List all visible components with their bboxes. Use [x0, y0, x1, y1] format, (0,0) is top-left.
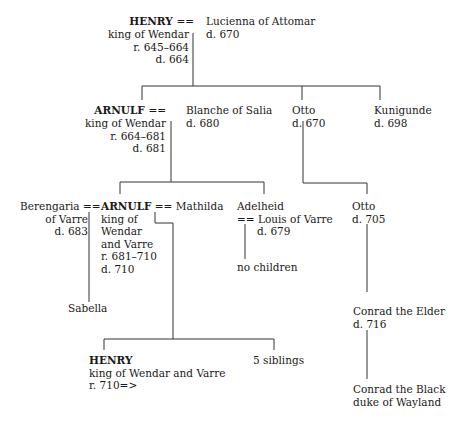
person-adelheid: Adelheid == Louis of Varre d. 679 [237, 200, 333, 238]
person-otto-i: Otto d. 670 [292, 104, 325, 129]
person-kunigunde: Kunigunde d. 698 [374, 104, 432, 129]
person-otto-ii: Otto d. 705 [352, 200, 385, 225]
person-berengaria: Berengaria == of Varre d. 683 [20, 200, 100, 238]
siblings-label: 5 siblings [253, 354, 304, 367]
person-mathilda: Mathilda [176, 200, 224, 212]
person-louis: Louis of Varre [258, 213, 333, 225]
person-arnulf-ii: ARNULF == Mathilda king of Wendar and Va… [101, 200, 223, 275]
person-arnulf-i-details: king of Wendar r. 664–681 d. 681 [60, 117, 166, 155]
person-henry-ii: HENRY king of Wendar and Varre r. 710=> [89, 354, 226, 392]
no-children-label: no children [237, 261, 298, 274]
person-conrad-black: Conrad the Black duke of Wayland [353, 383, 446, 408]
person-lucienna: Lucienna of Attomar d. 670 [206, 15, 315, 40]
person-blanche: Blanche of Salia d. 680 [186, 104, 272, 129]
person-arnulf-i-name: ARNULF == [90, 104, 166, 117]
person-henry-i-details: king of Wendar r. 645–664 d. 664 [80, 28, 189, 66]
person-henry-i-name: HENRY == [120, 15, 194, 28]
person-conrad-elder: Conrad the Elder d. 716 [353, 305, 445, 330]
person-sabella: Sabella [68, 302, 107, 315]
